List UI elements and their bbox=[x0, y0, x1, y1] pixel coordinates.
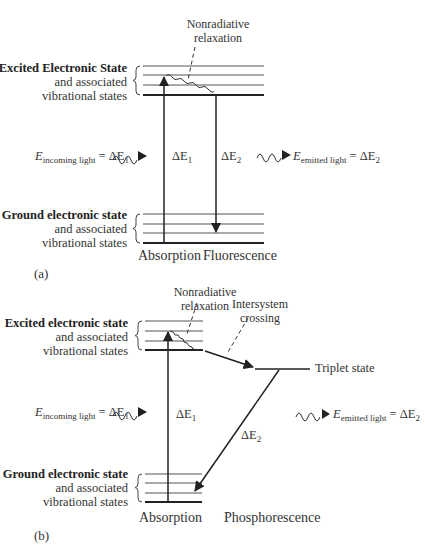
panel-a-delta-e1: ΔE1 bbox=[172, 149, 192, 165]
panel-b-incoming-light-equation: Eincoming light = ΔE1 bbox=[35, 405, 129, 421]
intersystem-crossing-label: Intersystem crossing bbox=[225, 297, 295, 325]
panel-b-excited-state-title: Excited electronic state bbox=[5, 316, 128, 331]
panel-b-delta-e2: ΔE2 bbox=[241, 428, 261, 444]
panel-a-delta-e2: ΔE2 bbox=[221, 149, 241, 165]
panel-a-excited-levels bbox=[143, 66, 264, 95]
triplet-state-label: Triplet state bbox=[315, 361, 375, 376]
panel-a-incoming-light-equation: Eincoming light = ΔE1 bbox=[35, 149, 129, 165]
panel-b-excited-brace bbox=[135, 321, 142, 350]
phosphorescence-arrow bbox=[195, 370, 279, 491]
panel-b-label: (b) bbox=[34, 528, 49, 544]
intersystem-crossing-arrow bbox=[205, 351, 253, 367]
panel-a-ground-state-title: Ground electronic state bbox=[2, 208, 127, 223]
panel-b-emitted-light-equation: Eemitted light = ΔE2 bbox=[333, 407, 420, 423]
panel-a-ground-state-sub1: and associated bbox=[54, 222, 127, 237]
relaxation-text: relaxation bbox=[168, 31, 268, 45]
panel-a-ground-state-sub2: vibrational states bbox=[42, 236, 127, 251]
panel-b-ground-state-title: Ground electronic state bbox=[3, 467, 128, 482]
panel-a-relaxation-wave bbox=[166, 75, 214, 92]
panel-a-emitted-light-equation: Eemitted light = ΔE2 bbox=[293, 149, 380, 165]
panel-a-ground-brace bbox=[133, 214, 140, 243]
panel-b-ground-state-sub2: vibrational states bbox=[43, 495, 128, 510]
panel-a-nonradiative-label: Nonradiative relaxation bbox=[168, 17, 268, 45]
panel-b-excited-state-sub2: vibrational states bbox=[43, 344, 128, 359]
panel-b-delta-e1: ΔE1 bbox=[176, 407, 196, 423]
panel-a-emitted-photon-icon bbox=[257, 154, 281, 162]
panel-b-phosphorescence-label: Phosphorescence bbox=[224, 510, 320, 526]
panel-a-excited-state-sub2: vibrational states bbox=[42, 89, 127, 104]
panel-a-fluorescence-label: Fluorescence bbox=[203, 248, 277, 264]
panel-b-absorption-label: Absorption bbox=[139, 510, 202, 526]
crossing-text: crossing bbox=[225, 311, 295, 325]
panel-b-ground-state-sub1: and associated bbox=[55, 481, 128, 496]
panel-b-ground-levels bbox=[145, 474, 202, 502]
panel-a-excited-brace bbox=[133, 66, 140, 95]
panel-a-absorption-label: Absorption bbox=[138, 248, 201, 264]
panel-b-ground-brace bbox=[135, 474, 142, 502]
panel-b-excited-levels bbox=[145, 321, 203, 350]
panel-a-excited-state-sub1: and associated bbox=[54, 75, 127, 90]
panel-a-ground-levels bbox=[143, 214, 264, 243]
intersystem-text: Intersystem bbox=[225, 297, 295, 311]
panel-b-excited-state-sub1: and associated bbox=[55, 330, 128, 345]
panel-a-excited-state-title: Excited Electronic State bbox=[0, 61, 127, 76]
panel-a-label: (a) bbox=[34, 266, 48, 282]
panel-b-emitted-photon-icon bbox=[296, 413, 320, 421]
nonradiative-text: Nonradiative bbox=[168, 17, 268, 31]
